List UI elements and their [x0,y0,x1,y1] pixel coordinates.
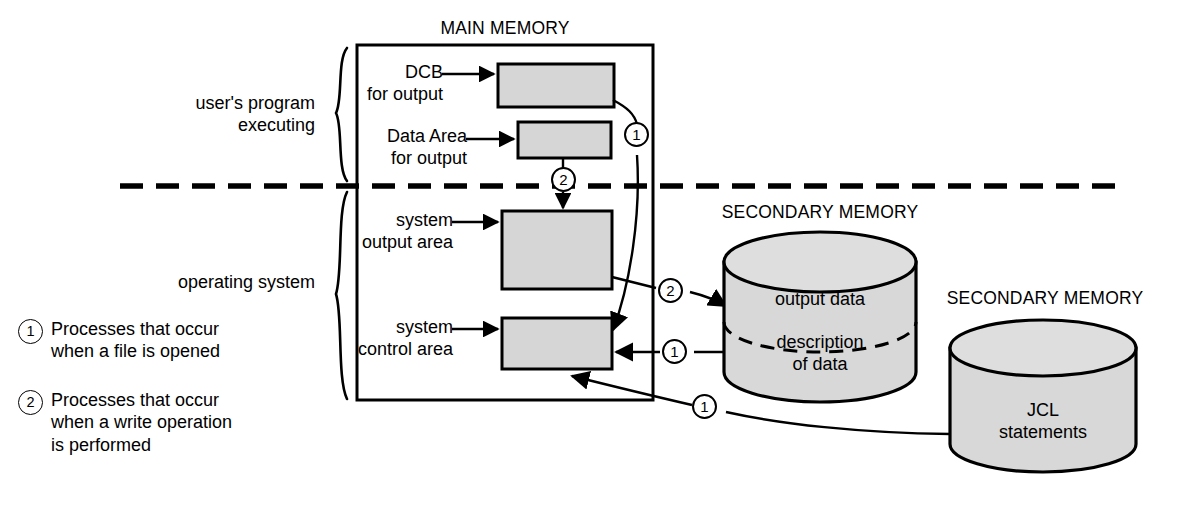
dcb-label: DCB for output [270,62,443,106]
flow-marker-1-dcb: 1 [624,122,649,147]
legend-item-1: 1 Processes that occur when a file is op… [18,318,220,363]
data-area-box [518,122,611,158]
legend-item-2: 2 Processes that occur when a write oper… [18,389,232,456]
jcl-statements-label: JCL statements [950,400,1136,444]
system-control-area-label: system control area [270,317,453,361]
jcl-disk-cylinder [950,320,1136,472]
legend-text-1: Processes that occur when a file is open… [51,318,220,363]
legend-marker-1: 1 [18,319,43,344]
flow1-dcb-to-control-lower [613,155,638,330]
flow1-jcl-to-control-right [726,412,950,434]
system-output-area-box [502,211,612,289]
system-output-area-label: system output area [270,210,453,254]
data-disk-cylinder [724,232,916,402]
flow-marker-2-output-to-disk: 2 [658,278,683,303]
diagram-canvas: MAIN MEMORY SECONDARY MEMORY SECONDARY M… [0,0,1179,509]
flow-marker-2-dataarea: 2 [551,167,576,192]
data-area-label: Data Area for output [270,126,467,170]
secondary-memory-title-1: SECONDARY MEMORY [700,202,940,223]
flow-marker-1-disk-to-control: 1 [662,339,687,364]
flow2-output-to-disk-right [690,292,726,306]
legend-text-2: Processes that occur when a write operat… [51,389,232,456]
operating-system-label: operating system [80,272,315,294]
dcb-box [498,64,614,107]
legend-marker-2: 2 [18,390,43,415]
main-memory-title: MAIN MEMORY [357,18,653,39]
flow2-output-to-disk-left [612,277,656,288]
system-control-area-box [502,318,612,369]
secondary-memory-title-2: SECONDARY MEMORY [925,288,1165,309]
description-of-data-label: description of data [724,332,916,376]
flow1-dcb-to-control-upper [613,100,637,124]
output-data-label: output data [724,289,916,311]
flow-marker-1-jcl-to-control: 1 [692,394,717,419]
